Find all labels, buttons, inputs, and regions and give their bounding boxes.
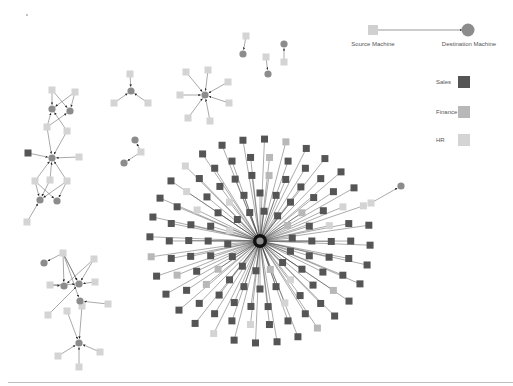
source-machine-node[interactable] — [247, 303, 254, 310]
source-machine-node[interactable] — [266, 172, 273, 179]
source-machine-node[interactable] — [226, 100, 233, 107]
source-machine-node[interactable] — [168, 255, 175, 262]
source-machine-node[interactable] — [203, 281, 210, 288]
source-machine-node[interactable] — [328, 238, 335, 245]
source-machine-node[interactable] — [266, 321, 273, 328]
source-machine-node[interactable] — [320, 207, 327, 214]
source-machine-node[interactable] — [207, 223, 214, 230]
source-machine-node[interactable] — [267, 266, 274, 273]
source-machine-node[interactable] — [240, 283, 247, 290]
source-machine-node[interactable] — [365, 222, 372, 229]
source-machine-node[interactable] — [64, 128, 71, 135]
destination-machine-node[interactable] — [264, 70, 271, 77]
source-machine-node[interactable] — [273, 283, 280, 290]
destination-machine-node[interactable] — [48, 105, 55, 112]
source-machine-node[interactable] — [330, 287, 337, 294]
destination-machine-node[interactable] — [36, 196, 43, 203]
source-machine-node[interactable] — [44, 124, 51, 131]
source-machine-node[interactable] — [216, 183, 223, 190]
source-machine-node[interactable] — [226, 199, 233, 206]
source-machine-node[interactable] — [289, 235, 296, 242]
source-machine-node[interactable] — [252, 339, 259, 346]
source-machine-node[interactable] — [211, 165, 218, 172]
destination-machine-node[interactable] — [201, 91, 208, 98]
source-machine-node[interactable] — [265, 303, 272, 310]
source-machine-node[interactable] — [47, 177, 54, 184]
source-machine-node[interactable] — [294, 333, 301, 340]
destination-machine-node[interactable] — [397, 182, 404, 189]
source-machine-node[interactable] — [183, 69, 190, 76]
source-machine-node[interactable] — [240, 192, 247, 199]
destination-machine-node[interactable] — [48, 154, 55, 161]
source-machine-node[interactable] — [207, 118, 214, 125]
source-machine-node[interactable] — [177, 92, 184, 99]
source-machine-node[interactable] — [345, 255, 352, 262]
source-machine-node[interactable] — [310, 282, 317, 289]
source-machine-node[interactable] — [45, 312, 52, 319]
source-machine-node[interactable] — [297, 292, 304, 299]
source-machine-node[interactable] — [60, 250, 67, 257]
source-machine-node[interactable] — [92, 279, 99, 286]
source-machine-node[interactable] — [25, 150, 32, 157]
source-machine-node[interactable] — [281, 59, 288, 66]
source-machine-node[interactable] — [225, 79, 232, 86]
source-machine-node[interactable] — [345, 220, 352, 227]
source-machine-node[interactable] — [261, 208, 268, 215]
source-machine-node[interactable] — [284, 317, 291, 324]
source-machine-node[interactable] — [356, 280, 363, 287]
source-machine-node[interactable] — [183, 287, 190, 294]
source-machine-node[interactable] — [182, 162, 189, 169]
source-machine-node[interactable] — [232, 176, 239, 183]
source-machine-node[interactable] — [282, 176, 289, 183]
source-machine-node[interactable] — [228, 317, 235, 324]
source-machine-node[interactable] — [72, 89, 79, 96]
source-machine-node[interactable] — [298, 266, 305, 273]
source-machine-node[interactable] — [263, 54, 270, 61]
source-machine-node[interactable] — [239, 137, 246, 144]
source-machine-node[interactable] — [185, 115, 192, 122]
source-machine-node[interactable] — [346, 298, 353, 305]
destination-machine-node[interactable] — [53, 197, 60, 204]
destination-machine-node[interactable] — [66, 107, 73, 114]
source-machine-node[interactable] — [266, 154, 273, 161]
source-machine-node[interactable] — [162, 291, 169, 298]
source-machine-node[interactable] — [229, 253, 236, 260]
source-machine-node[interactable] — [339, 203, 346, 210]
source-machine-node[interactable] — [321, 155, 328, 162]
source-machine-node[interactable] — [368, 200, 375, 207]
source-machine-node[interactable] — [210, 330, 217, 337]
source-machine-node[interactable] — [287, 276, 294, 283]
source-machine-node[interactable] — [285, 158, 292, 165]
source-machine-node[interactable] — [49, 87, 56, 94]
source-machine-node[interactable] — [226, 276, 233, 283]
source-machine-node[interactable] — [192, 320, 199, 327]
source-machine-node[interactable] — [331, 313, 338, 320]
source-machine-node[interactable] — [187, 253, 194, 260]
source-machine-node[interactable] — [287, 199, 294, 206]
source-machine-node[interactable] — [317, 300, 324, 307]
source-machine-node[interactable] — [174, 203, 181, 210]
source-machine-node[interactable] — [317, 175, 324, 182]
source-machine-node[interactable] — [287, 248, 294, 255]
source-machine-node[interactable] — [231, 299, 238, 306]
source-machine-node[interactable] — [47, 282, 54, 289]
source-machine-node[interactable] — [199, 150, 206, 157]
source-machine-node[interactable] — [229, 158, 236, 165]
source-machine-node[interactable] — [215, 266, 222, 273]
source-machine-node[interactable] — [168, 220, 175, 227]
source-machine-node[interactable] — [239, 263, 246, 270]
source-machine-node[interactable] — [149, 214, 156, 221]
source-machine-node[interactable] — [247, 154, 254, 161]
source-machine-node[interactable] — [246, 209, 253, 216]
source-machine-node[interactable] — [234, 216, 241, 223]
source-machine-node[interactable] — [193, 268, 200, 275]
source-machine-node[interactable] — [226, 227, 233, 234]
source-machine-node[interactable] — [330, 188, 337, 195]
source-machine-node[interactable] — [302, 165, 309, 172]
source-machine-node[interactable] — [203, 193, 210, 200]
source-machine-node[interactable] — [111, 100, 118, 107]
destination-machine-node[interactable] — [280, 40, 287, 47]
hub-destination-node[interactable] — [256, 237, 263, 244]
source-machine-node[interactable] — [64, 308, 71, 315]
source-machine-node[interactable] — [174, 272, 181, 279]
